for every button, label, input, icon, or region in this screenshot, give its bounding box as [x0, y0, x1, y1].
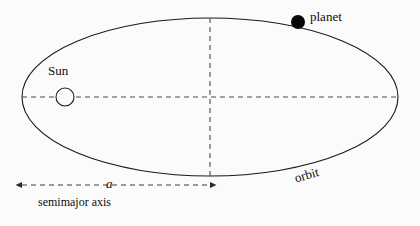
sun-circle	[56, 88, 74, 106]
sun-label: Sun	[48, 64, 68, 77]
planet-label: planet	[310, 10, 342, 23]
semimajor-symbol-label: a	[106, 177, 113, 190]
orbit-diagram: Sun planet orbit a semimajor axis	[0, 0, 420, 226]
semimajor-axis-label: semimajor axis	[38, 196, 111, 208]
orbit-diagram-canvas	[0, 0, 420, 226]
planet-dot	[291, 15, 305, 29]
